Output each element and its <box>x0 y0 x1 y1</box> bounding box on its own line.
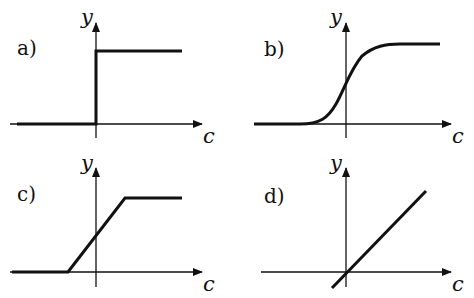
panel-b: b) y c <box>254 5 464 148</box>
panel-label: b) <box>264 37 285 61</box>
panel-label: a) <box>17 36 37 60</box>
panel-c: c) y c <box>10 151 215 296</box>
x-axis-label: c <box>452 124 464 148</box>
step-curve <box>17 51 182 124</box>
y-axis-label: y <box>329 5 343 29</box>
panel-a: a) y c <box>10 5 215 148</box>
x-axis-label: c <box>203 124 215 148</box>
y-axis-label: y <box>329 151 343 175</box>
x-axis-label: c <box>452 272 464 296</box>
y-axis-label: y <box>80 5 94 29</box>
y-axis-label: y <box>80 151 94 175</box>
figure: a) y c b) y c c) y c d) y c <box>0 0 474 298</box>
panel-label: c) <box>17 182 36 206</box>
x-axis-label: c <box>203 272 215 296</box>
panel-label: d) <box>264 184 285 208</box>
ramp-curve <box>12 198 182 272</box>
panel-d: d) y c <box>261 151 464 296</box>
